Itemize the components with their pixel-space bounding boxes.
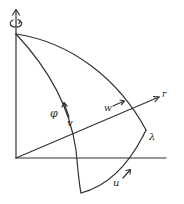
- diagram: φ v w r λ u: [0, 0, 184, 204]
- label-u: u: [113, 177, 119, 188]
- label-v: v: [67, 117, 73, 128]
- inner-meridian-curve: [16, 34, 81, 193]
- w-arrow-icon: [113, 100, 125, 106]
- u-arrow-icon: [123, 170, 131, 179]
- u-curve: [81, 136, 143, 193]
- rotation-arrow-icon: [10, 10, 21, 35]
- label-lambda: λ: [148, 131, 155, 142]
- label-r: r: [162, 89, 167, 99]
- label-phi: φ: [50, 107, 58, 120]
- outer-meridian-curve: [16, 34, 146, 130]
- label-w: w: [104, 103, 112, 113]
- lambda-corner: [143, 130, 146, 136]
- r-axis: [16, 97, 159, 158]
